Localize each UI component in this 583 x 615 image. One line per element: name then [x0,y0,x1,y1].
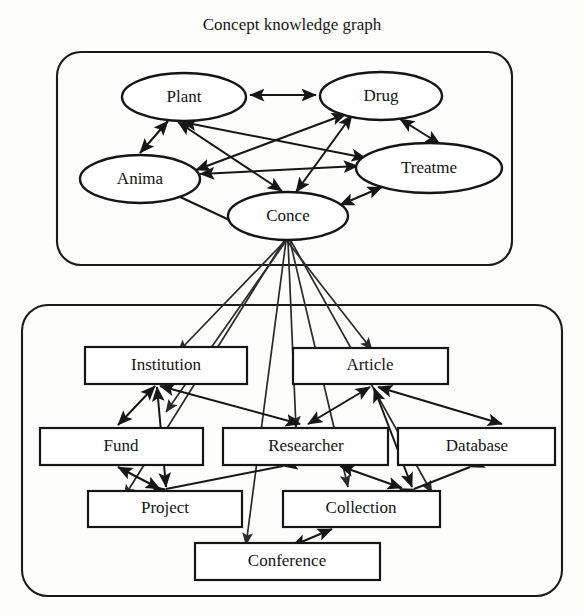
node-fund[interactable]: Fund [40,428,203,465]
edge-researcher-collection [340,466,402,488]
edge-conce-treatme [340,187,382,205]
edge-plant-anima [140,121,168,153]
node-treatme-label: Treatme [401,158,457,177]
node-fund-label: Fund [104,436,139,455]
diagram-page: Concept knowledge graph [0,0,583,615]
node-article-label: Article [346,355,393,374]
edge-database-collection [414,467,470,489]
node-institution[interactable]: Institution [85,347,247,384]
node-project[interactable]: Project [88,491,242,527]
edge-article-database [378,387,502,424]
edge-institution-fund [118,386,155,425]
page-title: Concept knowledge graph [203,15,382,34]
edge-article-researcher [308,387,370,424]
node-conce-label: Conce [266,206,309,225]
node-database[interactable]: Database [398,428,555,465]
entity-nodes: Institution Article Fund Researcher Data… [40,347,555,580]
edge-fund-project [118,467,160,489]
node-conference-label: Conference [248,551,326,570]
concept-nodes: Plant Drug Anima Treatme Conce [80,72,502,240]
edge-anima-treatme [200,166,358,174]
node-collection-label: Collection [326,498,397,517]
edge-conce-conference [246,241,286,545]
node-collection[interactable]: Collection [283,491,440,527]
node-anima[interactable]: Anima [80,155,200,203]
node-plant-label: Plant [167,87,202,106]
node-plant[interactable]: Plant [122,73,246,121]
node-conference[interactable]: Conference [195,543,380,580]
node-conce[interactable]: Conce [228,192,348,240]
concept-knowledge-graph-diagram: Concept knowledge graph [0,0,583,615]
node-anima-label: Anima [117,169,164,188]
node-researcher-label: Researcher [268,436,344,455]
edge-drug-treatme [400,119,440,144]
node-researcher[interactable]: Researcher [223,428,388,465]
edge-drug-anima [196,114,346,170]
node-drug[interactable]: Drug [320,72,442,120]
edge-conce-project [166,241,286,412]
node-database-label: Database [446,436,508,455]
edge-researcher-project [166,466,283,489]
node-treatme[interactable]: Treatme [356,143,502,193]
node-project-label: Project [141,498,189,517]
node-drug-label: Drug [364,86,399,105]
node-article[interactable]: Article [293,348,448,384]
node-institution-label: Institution [131,355,201,374]
edge-conce-researcher [288,241,296,428]
edge-conce-institution [178,241,285,352]
